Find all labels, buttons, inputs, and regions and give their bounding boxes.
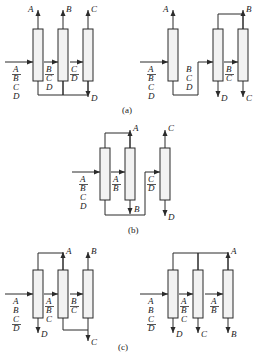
caption-a: (a) — [122, 105, 132, 115]
svg-text:C: C — [46, 314, 53, 324]
label-product-b: B — [231, 329, 237, 339]
label-product-b: B — [246, 4, 252, 14]
label-product-a: A — [162, 4, 169, 14]
column-c-left-1 — [33, 270, 43, 318]
column-c-left-3 — [83, 270, 93, 318]
label-product-a: A — [132, 123, 139, 133]
label-product-d: D — [167, 212, 175, 222]
feed-label-c-right-1: A B C D — [147, 296, 156, 333]
column-b-2 — [125, 148, 135, 200]
feed-label-c-left-1: A B C D — [12, 296, 21, 333]
loop-top-a-right-2 — [218, 14, 243, 29]
feed-label-c-left-2: A B C — [45, 296, 54, 324]
label-product-c: C — [201, 329, 208, 339]
loop-top-c-right-2 — [198, 253, 228, 270]
column-c-right-2 — [193, 270, 203, 318]
feed-label-c-left-3: B C — [70, 296, 79, 315]
feed-label-b-1: A B C D — [79, 174, 88, 211]
caption-b: (b) — [128, 225, 139, 235]
figure-canvas: A B C D A B C D B C D C D A B D C A B — [0, 0, 271, 354]
label-product-c: C — [246, 93, 253, 103]
column-c-left-2 — [58, 270, 68, 318]
label-product-c: C — [91, 337, 98, 347]
figure-distillation-sequences: A B C D A B C D B C D C D A B D C A B — [0, 0, 271, 354]
feed-label-a-left-3: C D — [70, 64, 79, 83]
svg-text:D: D — [12, 91, 20, 101]
feed-label-a-right-1: A B C D — [147, 64, 156, 101]
label-product-d: D — [90, 93, 98, 103]
feed-label-a-left-2: B C D — [45, 64, 54, 92]
column-a-left-1 — [33, 29, 43, 81]
feed-label-c-right-3: A B — [210, 296, 219, 315]
label-product-b: B — [66, 4, 72, 14]
panel-b — [72, 130, 170, 216]
label-product-a: A — [27, 4, 34, 14]
column-a-left-3 — [83, 29, 93, 81]
column-a-right-2 — [213, 29, 223, 81]
label-product-b: B — [134, 204, 140, 214]
label-product-c: C — [91, 4, 98, 14]
feed-label-a-left-1: A B C D — [12, 64, 21, 101]
svg-text:D: D — [185, 82, 193, 92]
feed-label-b-3: C D — [147, 174, 156, 193]
label-product-d: D — [220, 93, 228, 103]
column-a-right-3 — [238, 29, 248, 81]
column-c-right-1 — [168, 270, 178, 318]
label-product-b: B — [91, 246, 97, 256]
caption-c: (c) — [118, 342, 128, 352]
label-product-a: A — [230, 246, 237, 256]
label-product-c: C — [168, 123, 175, 133]
panel-a-right — [140, 10, 248, 97]
column-b-1 — [100, 148, 110, 200]
loop-top-b-1 — [105, 133, 130, 148]
label-product-a: A — [65, 246, 72, 256]
feed-label-b-2: A B — [112, 174, 121, 193]
label-product-d: D — [40, 329, 48, 339]
feed-label-a-right-2: B C D — [185, 64, 193, 92]
feed-label-c-right-2: A B C — [180, 296, 189, 324]
feed-label-a-right-3: B C — [225, 64, 234, 83]
loop-bottom-c-left-2 — [63, 318, 88, 330]
column-a-right-1 — [168, 29, 178, 81]
svg-text:D: D — [79, 201, 87, 211]
label-product-d: D — [175, 329, 183, 339]
loop-top-c-right-1 — [173, 253, 198, 270]
svg-text:D: D — [147, 91, 155, 101]
svg-text:D: D — [45, 82, 53, 92]
loop-bottom-a-left-2 — [63, 81, 88, 95]
loop-top-c-left-1 — [38, 253, 63, 270]
column-a-left-2 — [58, 29, 68, 81]
column-c-right-3 — [223, 270, 233, 318]
column-b-3 — [160, 148, 170, 200]
svg-text:C: C — [181, 314, 188, 324]
